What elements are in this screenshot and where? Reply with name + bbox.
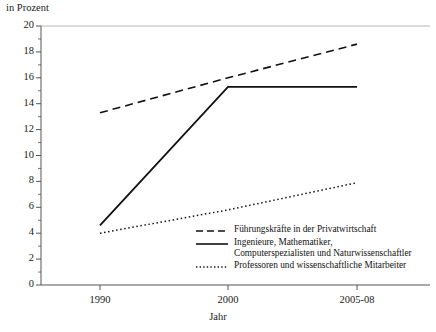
legend-solid-line-icon [196,238,228,249]
x-axis-tick-label: 2000 [188,294,268,305]
legend-item-professoren: Professoren und wissenschaftliche Mitarb… [196,260,412,272]
chart-container: in Prozent 20181614121086420 19902000200… [0,0,436,332]
y-axis-tick-label: 10 [6,150,34,160]
y-axis-tick-label: 14 [6,98,34,108]
y-axis-tick-label: 18 [6,46,34,56]
y-axis-tick-label: 6 [6,201,34,211]
x-axis-tick-label: 1990 [60,294,140,305]
y-axis-tick-label: 2 [6,253,34,263]
series-line-0 [100,44,357,113]
y-axis-tick-label: 20 [6,20,34,30]
plot-area [0,0,436,332]
legend-item-ingenieure: Ingenieure, Mathematiker, Computerspezia… [196,237,412,259]
x-axis-ticks [100,285,357,290]
data-series-layer [100,44,357,233]
y-axis-tick-label: 4 [6,227,34,237]
series-line-1 [100,87,357,226]
y-axis-tick-label: 12 [6,124,34,134]
x-axis-title: Jahr [0,311,436,322]
y-axis-tick-label: 0 [6,279,34,289]
chart-legend: Führungskräfte in der Privatwirtschaft I… [196,224,412,273]
legend-label-ingenieure: Ingenieure, Mathematiker, Computerspezia… [234,237,412,259]
x-axis-tick-label: 2005-08 [317,294,397,305]
y-axis-tick-label: 8 [6,175,34,185]
y-axis-tick-label: 16 [6,72,34,82]
legend-dashed-line-icon [196,225,228,236]
legend-label-fuehrungskraefte: Führungskräfte in der Privatwirtschaft [234,224,376,235]
y-axis-title: in Prozent [6,2,49,13]
legend-item-fuehrungskraefte: Führungskräfte in der Privatwirtschaft [196,224,412,236]
legend-dotted-line-icon [196,261,228,272]
y-axis-ticks [36,26,41,285]
legend-label-professoren: Professoren und wissenschaftliche Mitarb… [234,260,406,271]
